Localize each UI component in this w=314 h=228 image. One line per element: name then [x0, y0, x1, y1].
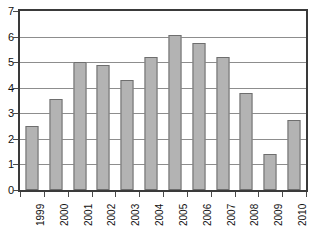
- bar-slot: [139, 11, 163, 190]
- bar-slot: [92, 11, 116, 190]
- y-axis-tick-mark: [13, 88, 18, 89]
- bar: [145, 57, 158, 190]
- y-axis-tick-mark: [13, 190, 18, 191]
- bar-slot: [163, 11, 187, 190]
- y-axis-tick-mark: [13, 62, 18, 63]
- bar-slot: [258, 11, 282, 190]
- bar: [240, 93, 253, 190]
- bar-slot: [211, 11, 235, 190]
- bar: [121, 80, 134, 190]
- y-axis-tick-mark: [13, 139, 18, 140]
- bar-slot: [20, 11, 44, 190]
- bar-slot: [44, 11, 68, 190]
- bar-slot: [68, 11, 92, 190]
- bar: [288, 120, 301, 190]
- bar: [216, 57, 229, 190]
- bar: [49, 99, 62, 190]
- bar: [25, 126, 38, 190]
- bar-series: [20, 11, 306, 190]
- y-axis-tick-mark: [13, 37, 18, 38]
- bar-slot: [235, 11, 259, 190]
- bar: [264, 154, 277, 190]
- plot-area: [18, 9, 308, 192]
- chart-title-clipped: [70, 0, 240, 5]
- x-axis-labels: 1999200020012002200320042005200620072008…: [18, 197, 308, 228]
- bar: [192, 43, 205, 190]
- bar: [97, 65, 110, 190]
- bar-chart: 01234567 1999200020012002200320042005200…: [0, 0, 314, 228]
- bar-slot: [282, 11, 306, 190]
- y-axis-tick-mark: [13, 164, 18, 165]
- y-axis-tick-mark: [13, 11, 18, 12]
- y-axis-tick-mark: [13, 113, 18, 114]
- bar: [168, 35, 181, 190]
- bar: [73, 62, 86, 190]
- bar-slot: [115, 11, 139, 190]
- bar-slot: [187, 11, 211, 190]
